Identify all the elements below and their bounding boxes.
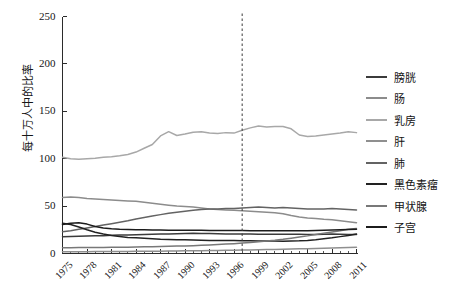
legend-label: 子宫	[394, 219, 416, 235]
chart-legend: 膀胱肠乳房肝肺黑色素瘤甲状腺子宫	[366, 66, 438, 238]
legend-item-2[interactable]: 乳房	[366, 109, 438, 131]
legend-item-3[interactable]: 肝	[366, 131, 438, 153]
legend-label: 乳房	[394, 112, 416, 128]
legend-swatch-icon	[366, 76, 387, 78]
legend-swatch-icon	[366, 162, 387, 164]
legend-label: 肠	[394, 90, 405, 106]
y-tick-label: 250	[22, 11, 56, 22]
legend-label: 肺	[394, 155, 405, 171]
legend-item-6[interactable]: 甲状腺	[366, 195, 438, 217]
legend-swatch-icon	[366, 205, 387, 207]
legend-item-1[interactable]: 肠	[366, 88, 438, 110]
legend-swatch-icon	[366, 97, 387, 99]
series-line-5	[63, 223, 357, 241]
series-line-2	[63, 126, 357, 159]
legend-swatch-icon	[366, 226, 387, 228]
cancer-incidence-line-chart: 每十万人中的比率 050100150200250 197519781981198…	[0, 0, 461, 288]
legend-item-5[interactable]: 黑色素瘤	[366, 174, 438, 196]
y-tick-label: 200	[22, 58, 56, 69]
legend-label: 肝	[394, 133, 405, 149]
legend-label: 膀胱	[394, 69, 416, 85]
y-tick-label: 150	[22, 105, 56, 116]
series-line-1	[63, 197, 357, 223]
y-tick-label: 0	[22, 248, 56, 259]
legend-item-0[interactable]: 膀胱	[366, 66, 438, 88]
legend-label: 黑色素瘤	[394, 176, 438, 192]
y-tick-label: 50	[22, 200, 56, 211]
series-group	[63, 126, 357, 252]
legend-item-4[interactable]: 肺	[366, 152, 438, 174]
legend-label: 甲状腺	[394, 198, 427, 214]
legend-swatch-icon	[366, 183, 387, 185]
y-tick-label: 100	[22, 153, 56, 164]
legend-swatch-icon	[366, 119, 387, 121]
legend-item-7[interactable]: 子宫	[366, 217, 438, 239]
legend-swatch-icon	[366, 140, 387, 142]
